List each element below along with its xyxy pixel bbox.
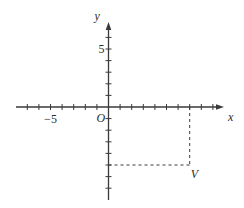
- y-axis-label: y: [94, 9, 101, 23]
- tick-labels: −55: [44, 42, 104, 126]
- origin-label: O: [97, 111, 106, 125]
- point-label-v: V: [191, 167, 200, 181]
- x-axis-arrow-icon: [216, 104, 224, 110]
- x-tick-label: −5: [44, 112, 57, 126]
- dashed-guides: [109, 107, 190, 165]
- y-tick-label: 5: [99, 42, 105, 56]
- coordinate-plane: x y O −55 V: [0, 0, 244, 208]
- y-axis-arrow-icon: [106, 22, 112, 30]
- x-axis-label: x: [227, 110, 234, 124]
- point-labels: V: [191, 167, 200, 181]
